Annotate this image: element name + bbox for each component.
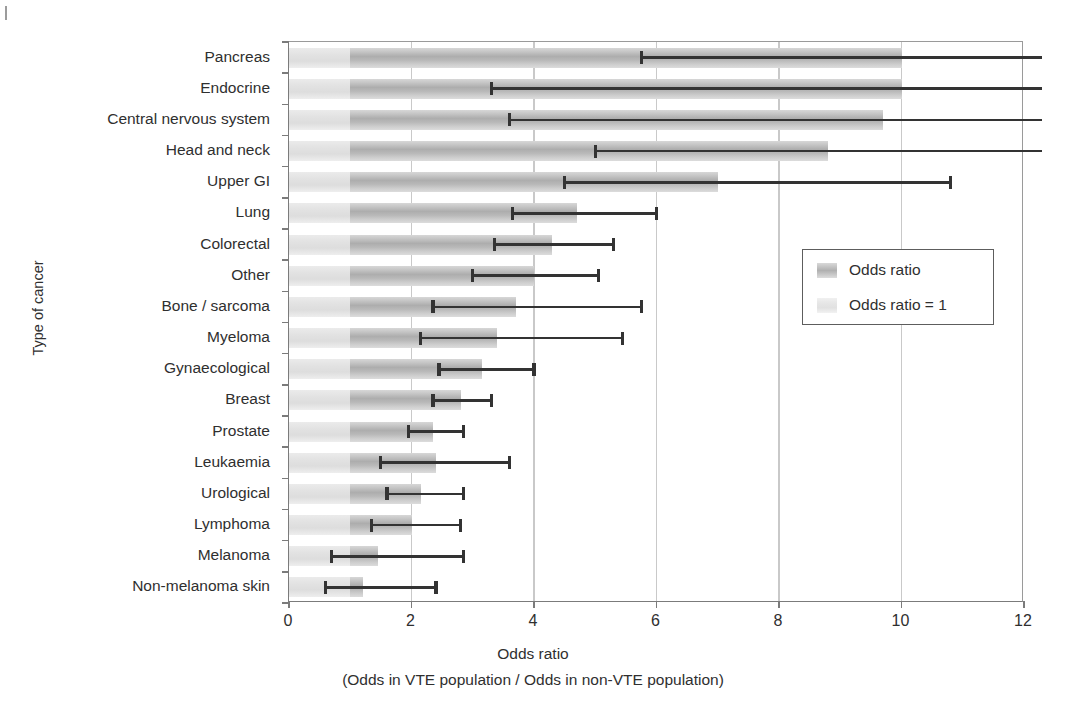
error-bar-cap-upper <box>621 332 624 345</box>
error-bar-cap-upper <box>462 425 465 438</box>
legend-item-odds-ratio-one[interactable]: Odds ratio = 1 <box>817 295 947 315</box>
x-axis-title: Odds ratio <box>0 645 1066 663</box>
error-bar-cap-lower <box>324 581 327 594</box>
legend-label-odds-ratio-one: Odds ratio = 1 <box>849 296 947 314</box>
y-axis-tick-label: Upper GI <box>0 173 270 189</box>
x-axis-tick <box>901 601 902 608</box>
x-axis-tick-label: 6 <box>651 612 660 630</box>
chart-legend[interactable]: Odds ratio Odds ratio = 1 <box>802 249 994 325</box>
y-axis-tick <box>282 291 289 292</box>
y-axis-tick <box>282 135 289 136</box>
error-bar-cap-lower <box>431 300 434 313</box>
error-bar-cap-lower <box>640 51 643 64</box>
legend-label-odds-ratio: Odds ratio <box>849 261 921 279</box>
y-axis-tick-label: Lung <box>0 204 270 220</box>
error-bar-line <box>381 461 510 464</box>
bar-reference-band <box>289 359 350 379</box>
bar-reference-band <box>289 203 350 223</box>
error-bar-line <box>421 337 623 340</box>
x-axis-subtitle: (Odds in VTE population / Odds in non-VT… <box>0 671 1066 689</box>
error-bar-line <box>372 524 461 527</box>
y-axis-tick <box>282 446 289 447</box>
legend-swatch-odds-ratio-one-icon <box>817 298 837 313</box>
y-axis-tick-label: Pancreas <box>0 49 270 65</box>
error-bar-cap-lower <box>330 550 333 563</box>
error-bar-line <box>387 493 464 496</box>
y-axis-tick-label: Endocrine <box>0 80 270 96</box>
error-bar-cap-lower <box>471 269 474 282</box>
x-axis-tick-label: 2 <box>406 612 415 630</box>
error-bar-cap-upper <box>640 300 643 313</box>
error-bar-line <box>595 150 1042 153</box>
error-bar-cap-lower <box>437 363 440 376</box>
legend-swatch-odds-ratio-icon <box>817 263 837 278</box>
legend-item-odds-ratio[interactable]: Odds ratio <box>817 260 921 280</box>
error-bar-line <box>439 368 534 371</box>
bar-reference-band <box>289 235 350 255</box>
y-axis-tick-label: Myeloma <box>0 329 270 345</box>
bar-reference-band <box>289 422 350 442</box>
y-axis-tick <box>282 415 289 416</box>
error-bar-line <box>433 306 641 309</box>
bar-reference-band <box>289 453 350 473</box>
y-axis-tick-label: Bone / sarcoma <box>0 298 270 314</box>
bar-reference-band <box>289 110 350 130</box>
y-axis-tick <box>282 384 289 385</box>
y-axis-tick-label: Non-melanoma skin <box>0 578 270 594</box>
y-axis-tick <box>282 41 289 42</box>
error-bar-line <box>510 119 1043 122</box>
bar-reference-band <box>289 328 350 348</box>
error-bar-cap-upper <box>508 456 511 469</box>
error-bar-cap-lower <box>594 145 597 158</box>
y-axis-tick <box>282 104 289 105</box>
y-axis-tick-label: Gynaecological <box>0 360 270 376</box>
error-bar-line <box>433 399 491 402</box>
y-axis-tick <box>282 228 289 229</box>
y-axis-tick-label: Urological <box>0 485 270 501</box>
y-axis-tick-label: Prostate <box>0 423 270 439</box>
bar-reference-band <box>289 141 350 161</box>
error-bar-cap-upper <box>459 519 462 532</box>
error-bar-cap-upper <box>462 550 465 563</box>
error-bar-cap-upper <box>655 207 658 220</box>
error-bar-cap-upper <box>490 394 493 407</box>
y-axis-tick-label: Melanoma <box>0 547 270 563</box>
x-axis-tick <box>411 601 412 608</box>
y-axis-tick-label: Breast <box>0 391 270 407</box>
error-bar-cap-lower <box>385 487 388 500</box>
y-axis-tick <box>282 166 289 167</box>
y-axis-tick-label: Colorectal <box>0 236 270 252</box>
y-axis-tick <box>282 571 289 572</box>
bar-reference-band <box>289 172 350 192</box>
y-axis-tick <box>282 197 289 198</box>
error-bar-cap-upper <box>532 363 535 376</box>
x-axis-tick-label: 4 <box>529 612 538 630</box>
error-bar-line <box>565 181 951 184</box>
y-axis-tick <box>282 322 289 323</box>
y-axis-tick <box>282 259 289 260</box>
error-bar-cap-lower <box>511 207 514 220</box>
x-axis-tick <box>778 601 779 608</box>
error-bar-line <box>641 56 1042 59</box>
x-axis-tick-label: 10 <box>892 612 910 630</box>
y-axis-tick-label: Lymphoma <box>0 516 270 532</box>
bar-reference-band <box>289 390 350 410</box>
error-bar-cap-lower <box>407 425 410 438</box>
x-axis-tick-label: 8 <box>774 612 783 630</box>
y-axis-tick-label: Leukaemia <box>0 454 270 470</box>
error-bar-line <box>494 243 613 246</box>
y-axis-tick-label: Head and neck <box>0 142 270 158</box>
error-bar-line <box>332 555 464 558</box>
error-bar-line <box>513 212 657 215</box>
y-axis-tick-label: Central nervous system <box>0 111 270 127</box>
error-bar-line <box>326 586 436 589</box>
error-bar-cap-upper <box>462 487 465 500</box>
error-bar-cap-lower <box>431 394 434 407</box>
error-bar-cap-upper <box>949 176 952 189</box>
y-axis-tick <box>282 478 289 479</box>
y-axis-tick <box>282 353 289 354</box>
error-bar-cap-lower <box>563 176 566 189</box>
x-axis-tick <box>656 601 657 608</box>
bar-reference-band <box>289 297 350 317</box>
y-axis-tick <box>282 72 289 73</box>
